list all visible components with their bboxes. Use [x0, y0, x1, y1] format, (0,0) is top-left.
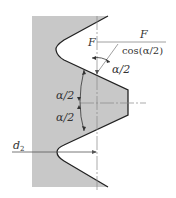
angle-arrow-top-left	[92, 56, 96, 60]
pitch-diameter-arrow-icon	[92, 150, 97, 154]
angle-label-top: α/2	[112, 63, 130, 76]
pitch-diameter-label: d2	[13, 139, 25, 153]
angle-arrow-top-right	[106, 59, 110, 63]
normal-force-denominator: cos(α/2)	[122, 45, 163, 56]
thread-diagram: F F cos(α/2) α/2 α/2 α/2 d2	[0, 0, 176, 198]
angle-label-mid-lower: α/2	[56, 111, 74, 124]
angle-label-mid-upper: α/2	[56, 89, 74, 102]
normal-force-numerator: F	[139, 28, 148, 41]
force-label: F	[87, 36, 96, 49]
